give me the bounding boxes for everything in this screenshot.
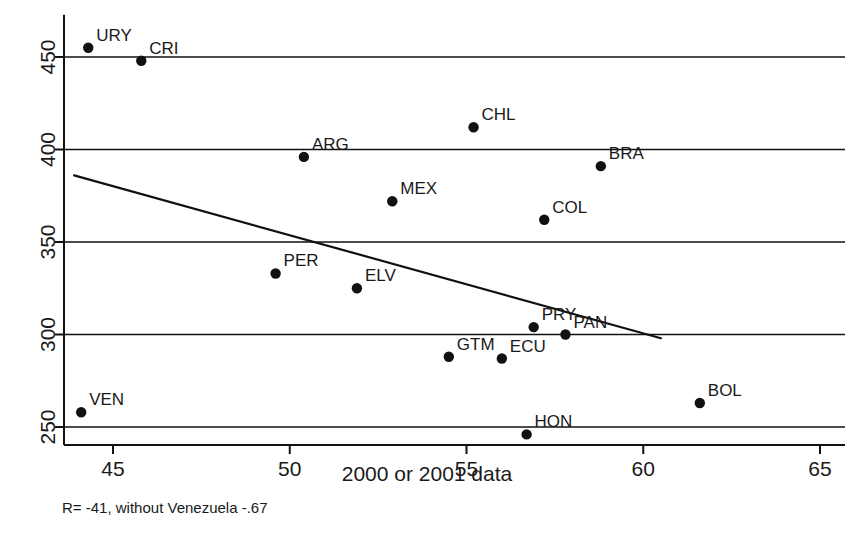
x-tick-label-45: 45 [101,457,124,480]
y-tick-label-300: 300 [36,317,59,352]
data-point-label-pry: PRY [542,305,577,324]
data-point-bol [695,398,705,408]
data-point-label-cri: CRI [149,39,178,58]
data-point-label-gtm: GTM [457,335,495,354]
data-point-label-per: PER [284,251,319,270]
data-point-ury [83,43,93,53]
y-tick-label-250: 250 [36,409,59,444]
data-point-ecu [497,353,507,363]
data-point-hon [521,429,531,439]
y-tick-label-400: 400 [36,132,59,167]
x-tick-label-65: 65 [808,457,831,480]
data-point-elv [352,283,362,293]
data-point-label-hon: HON [535,412,573,431]
data-point-per [270,268,280,278]
data-point-label-mex: MEX [400,179,437,198]
data-point-label-pan: PAN [573,313,607,332]
data-point-gtm [444,352,454,362]
y-tick-label-450: 450 [36,39,59,74]
data-point-label-bol: BOL [708,381,742,400]
plot-canvas: URYCRICHLARGBRAMEXCOLPERELVPRYPANGTMECUB… [0,0,855,541]
data-point-label-ven: VEN [89,390,124,409]
data-point-pan [560,329,570,339]
x-tick-label-50: 50 [278,457,301,480]
data-point-label-bra: BRA [609,144,645,163]
gridlines-group [64,57,845,427]
data-point-label-elv: ELV [365,266,397,285]
correlation-annotation: R= -41, without Venezuela -.67 [62,499,268,516]
data-point-mex [387,196,397,206]
data-point-label-ecu: ECU [510,337,546,356]
data-point-label-ury: URY [96,26,132,45]
data-point-ven [76,407,86,417]
data-point-label-arg: ARG [312,135,349,154]
data-point-col [539,215,549,225]
data-point-pry [528,322,538,332]
x-axis-title: 2000 or 2001 data [342,462,513,485]
tick-marks-group [55,57,820,454]
data-points-group: URYCRICHLARGBRAMEXCOLPERELVPRYPANGTMECUB… [76,26,742,440]
data-point-arg [299,152,309,162]
scatter-chart-figure: URYCRICHLARGBRAMEXCOLPERELVPRYPANGTMECUB… [0,0,855,541]
data-point-bra [596,161,606,171]
data-point-label-col: COL [552,198,587,217]
data-point-chl [468,122,478,132]
data-point-cri [136,56,146,66]
x-tick-label-60: 60 [632,457,655,480]
y-tick-labels-group: 250300350400450 [36,39,59,444]
data-point-label-chl: CHL [482,105,516,124]
y-tick-label-350: 350 [36,224,59,259]
